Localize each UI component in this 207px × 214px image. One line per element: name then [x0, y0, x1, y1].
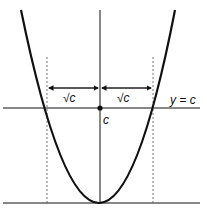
- label-y-equals-c: y = c: [169, 93, 196, 107]
- parabola-diagram: √c √c y = c c: [0, 0, 207, 214]
- diagram-canvas: √c √c y = c c: [0, 0, 207, 214]
- label-sqrt-left: √c: [63, 91, 76, 105]
- point-c: [97, 105, 102, 110]
- label-sqrt-right: √c: [117, 91, 130, 105]
- label-c: c: [103, 113, 109, 127]
